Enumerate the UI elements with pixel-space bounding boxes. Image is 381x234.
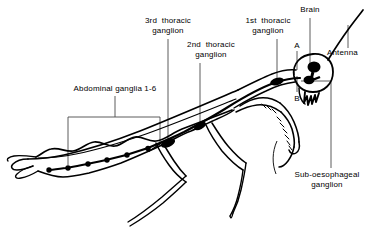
abdominal-ganglion-5 — [65, 165, 70, 170]
label-sub-oesophageal-ganglion: Sub-oesophageal ganglion — [279, 170, 375, 189]
brain-ganglion — [308, 62, 321, 73]
label-marker-a: A — [292, 41, 302, 51]
abdomen-tip — [12, 159, 33, 170]
label-2nd-thoracic-ganglion: 2nd thoracic ganglion — [175, 40, 247, 59]
abdominal-ganglion-3 — [104, 157, 109, 162]
middle-leg-tibia-lower — [230, 170, 243, 216]
middle-leg-femur-lower — [206, 125, 243, 170]
hind-leg-tibia-lower — [130, 182, 186, 226]
mouthparts — [304, 92, 319, 105]
label-marker-b: B — [292, 94, 302, 104]
abdomen-ventral-outline — [38, 151, 149, 177]
hind-leg-tibia — [128, 176, 186, 222]
label-brain: Brain — [288, 5, 332, 15]
label-antenna: Antenna — [327, 48, 371, 58]
abdominal-ganglion-2 — [124, 152, 129, 157]
leader-sub-oesophageal-hook — [273, 141, 277, 174]
mantis-nervous-system-figure: Abdominal ganglia 1-6 3rd thoracic gangl… — [0, 0, 381, 234]
label-abdominal-ganglia: Abdominal ganglia 1-6 — [61, 84, 169, 94]
abdominal-ganglion-4 — [85, 161, 90, 166]
abdominal-ganglion-1 — [145, 146, 150, 151]
hind-leg-femur-lower — [156, 143, 186, 182]
foreleg-spines — [277, 117, 292, 150]
cercus-lower — [16, 166, 38, 178]
label-3rd-thoracic-ganglion: 3rd thoracic ganglion — [132, 16, 204, 35]
mantis-diagram — [0, 0, 381, 234]
label-1st-thoracic-ganglion: 1st thoracic ganglion — [234, 16, 302, 35]
leader-abdominal-ganglia — [68, 96, 160, 165]
abdominal-ganglion-6 — [46, 167, 51, 172]
